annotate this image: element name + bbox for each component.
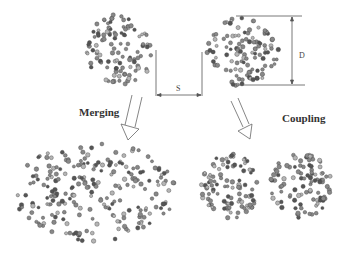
particle [134,78,137,81]
particle [304,190,308,194]
particle [45,155,49,159]
particle [109,20,112,23]
particle [119,42,122,45]
particle [167,188,171,192]
particle [270,37,274,41]
particle [210,184,214,188]
particle [249,193,254,198]
particle [122,177,127,182]
particle [291,176,295,180]
particle [126,183,130,187]
particle [102,33,106,37]
particle [222,199,226,203]
particle [37,206,40,209]
particle [208,48,212,52]
particle [247,28,251,32]
particle [215,157,218,160]
particle [109,28,112,31]
particle [200,192,204,196]
particle [85,229,89,233]
particle [29,182,32,185]
particle [253,52,256,55]
particle [117,74,121,78]
particle [129,65,133,69]
particle [133,179,138,184]
particle [256,69,260,73]
particle [93,35,96,38]
particle [273,63,276,66]
particle [303,210,307,214]
particle [77,213,81,217]
particle [149,53,153,57]
particle [94,43,98,47]
particle [236,211,240,215]
particle [271,173,276,178]
particle [270,47,274,51]
particle [99,59,102,62]
particle [129,24,133,28]
cluster-bottom-right-coupled-b [269,153,332,219]
particle [298,159,302,163]
particle [81,150,85,154]
particle [255,180,259,184]
particle [116,219,120,223]
particle [209,179,213,183]
particle [138,35,141,38]
particle [86,52,89,55]
particle [248,203,253,208]
particle [95,50,99,54]
particle [139,208,142,211]
cluster-bottom-left-merged [16,142,176,243]
particle [81,164,86,169]
particle [311,198,315,202]
particle [142,215,146,219]
particle [168,208,171,211]
particle [145,45,149,49]
particle [314,211,318,215]
particle [127,76,131,80]
particle [127,57,132,62]
particle [237,42,241,46]
particle [246,159,250,163]
particle [91,178,95,182]
particle [259,42,262,45]
particle [154,192,158,196]
particle [299,203,303,207]
particle [95,22,99,26]
particle [46,152,49,155]
particle [249,171,252,174]
particle [228,41,232,45]
particle [206,186,209,189]
particle [20,206,23,209]
particle [316,191,320,195]
particle [113,32,117,36]
particle [296,193,301,198]
particle [16,194,19,197]
particle [100,169,103,172]
particle [215,183,218,186]
particle [208,199,212,203]
particle [229,201,233,205]
particle [31,204,36,209]
particle [280,190,283,193]
particle [46,177,49,180]
particle [263,64,267,68]
particle [293,156,298,161]
particle [247,70,251,74]
particle [236,26,240,30]
particle [108,160,113,165]
particle [31,175,35,179]
particle [68,197,71,200]
particle [111,13,115,17]
particle [72,165,75,168]
particle [104,206,107,209]
particle [243,183,247,187]
particle [25,163,29,167]
particle [134,69,138,73]
particle [32,181,35,184]
particle [229,211,232,214]
particle [72,193,76,197]
particle [156,180,159,183]
particle [225,34,229,38]
particle [76,182,80,186]
